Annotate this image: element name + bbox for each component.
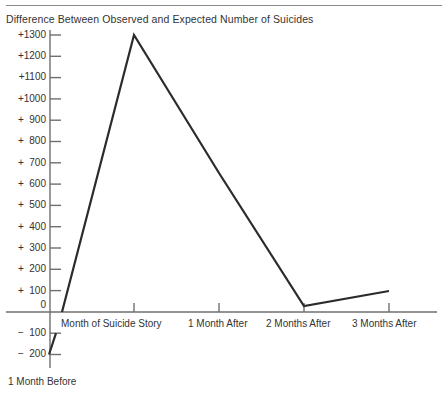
y-axis-ticks [50,35,61,355]
line-chart-plot [0,0,448,394]
x-tick-label-1-month-after: 1 Month After [188,318,247,329]
y-tick-label: +1100 [0,71,46,82]
y-tick-label: + 200 [0,263,46,274]
x-tick-label-2-months-after: 2 Months After [266,318,330,329]
y-tick-label: 0 [0,299,46,310]
x-tick-label-1-month-before: 1 Month Before [8,376,76,387]
x-tick-label-3-months-after: 3 Months After [352,318,416,329]
y-tick-label: − 100 [0,327,46,338]
y-tick-label: + 600 [0,178,46,189]
y-tick-label: +1300 [0,29,46,40]
y-tick-label: +1200 [0,50,46,61]
x-axis-ticks [134,303,389,312]
x-tick-label-month-of-story: Month of Suicide Story [61,318,162,329]
y-tick-label: − 200 [0,348,46,359]
y-tick-label: + 700 [0,157,46,168]
y-tick-label: + 900 [0,114,46,125]
y-tick-label: + 300 [0,242,46,253]
y-tick-label: + 800 [0,135,46,146]
y-tick-label: + 500 [0,199,46,210]
y-tick-label: + 100 [0,285,46,296]
y-tick-label: + 400 [0,221,46,232]
y-tick-label: +1000 [0,93,46,104]
